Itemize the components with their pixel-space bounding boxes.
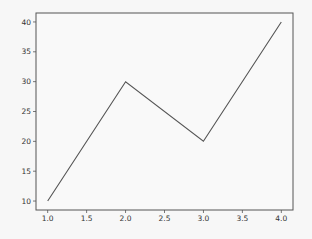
x-axis: 1.01.52.02.53.03.54.0 bbox=[42, 210, 288, 223]
line-chart: 10152025303540 1.01.52.02.53.03.54.0 bbox=[0, 0, 312, 239]
x-tick-label: 4.0 bbox=[275, 214, 287, 223]
y-axis: 10152025303540 bbox=[21, 18, 36, 206]
x-tick-label: 3.5 bbox=[236, 214, 248, 223]
x-tick-label: 2.5 bbox=[159, 214, 171, 223]
y-tick-label: 30 bbox=[21, 77, 31, 86]
y-tick-label: 40 bbox=[21, 18, 31, 27]
y-tick-label: 35 bbox=[21, 47, 31, 56]
y-tick-label: 10 bbox=[21, 197, 31, 206]
y-tick-label: 25 bbox=[21, 107, 31, 116]
x-tick-label: 1.0 bbox=[42, 214, 54, 223]
x-tick-label: 1.5 bbox=[81, 214, 93, 223]
x-tick-label: 2.0 bbox=[120, 214, 132, 223]
y-tick-label: 20 bbox=[21, 137, 31, 146]
x-tick-label: 3.0 bbox=[197, 214, 209, 223]
y-tick-label: 15 bbox=[21, 167, 31, 176]
